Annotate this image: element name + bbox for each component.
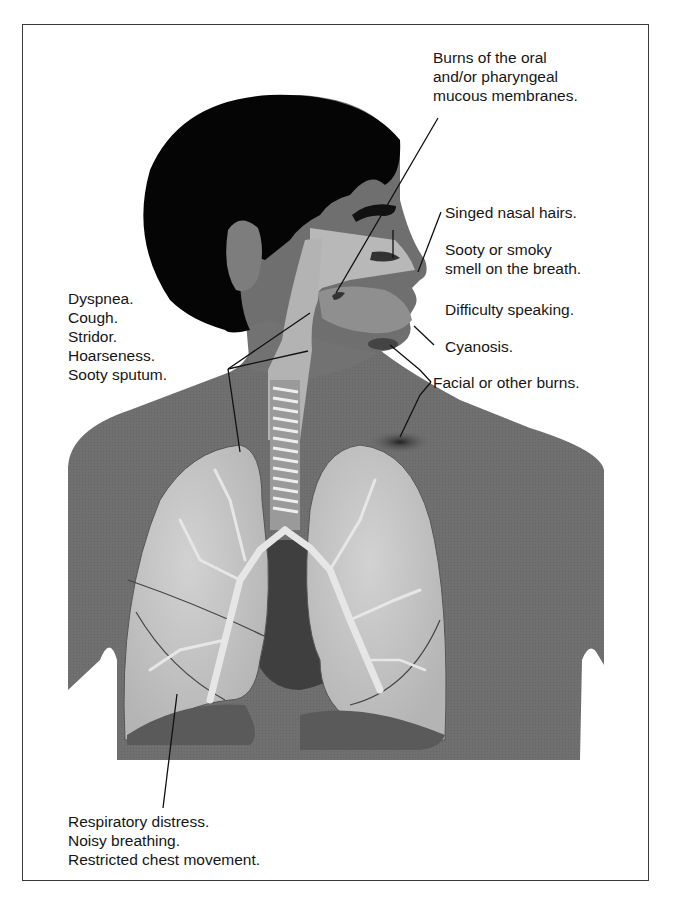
ear	[226, 220, 262, 291]
chest-burn-mark	[368, 430, 432, 454]
label-sooty-smell: Sooty or smoky smell on the breath.	[445, 240, 581, 278]
label-burns-oral: Burns of the oral and/or pharyngeal muco…	[433, 48, 578, 105]
label-bottom-group: Respiratory distress. Noisy breathing. R…	[68, 812, 260, 869]
anatomy-illustration	[0, 0, 674, 914]
label-left-group: Dyspnea. Cough. Stridor. Hoarseness. Soo…	[68, 289, 167, 384]
label-cyanosis: Cyanosis.	[445, 337, 513, 356]
leader-cyanosis	[414, 326, 434, 345]
head	[143, 95, 426, 352]
label-facial-burns: Facial or other burns.	[433, 373, 579, 392]
label-singed-hairs: Singed nasal hairs.	[445, 203, 577, 222]
leader-singed-hairs	[418, 212, 441, 272]
label-difficulty-speaking: Difficulty speaking.	[445, 300, 574, 319]
